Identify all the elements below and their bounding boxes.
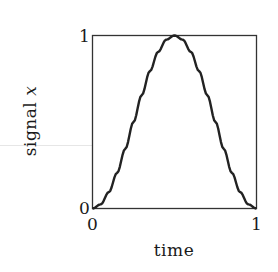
y-axis-label-text: signal bbox=[20, 96, 40, 156]
plot-area bbox=[0, 0, 278, 272]
y-axis-label: signal x bbox=[20, 86, 40, 157]
y-axis-label-variable: x bbox=[20, 86, 40, 96]
axes-frame bbox=[93, 36, 257, 209]
x-tick-1: 1 bbox=[251, 216, 262, 233]
y-tick-1: 1 bbox=[79, 28, 90, 45]
signal-curve bbox=[93, 36, 257, 209]
x-axis-label: time bbox=[154, 240, 194, 260]
x-tick-0: 0 bbox=[87, 216, 98, 233]
